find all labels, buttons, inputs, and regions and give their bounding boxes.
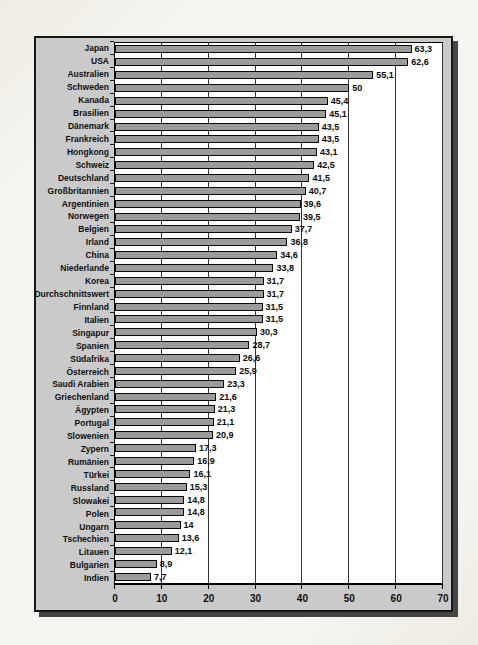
- x-tick-label: 70: [437, 593, 448, 604]
- category-label: Singapur: [36, 326, 114, 339]
- value-label: 7,7: [154, 572, 167, 582]
- bar-row: 42,5: [115, 159, 443, 172]
- category-label: Russland: [36, 481, 114, 494]
- category-label: Japan: [36, 42, 114, 55]
- x-axis-tick-mark: [442, 585, 443, 589]
- value-label: 43,5: [322, 122, 340, 132]
- value-label: 33,8: [276, 263, 294, 273]
- x-tick-label: 60: [391, 593, 402, 604]
- bar: [115, 328, 257, 336]
- value-label: 16,1: [193, 469, 211, 479]
- category-label: Großbritannien: [36, 184, 114, 197]
- category-label: Argentinien: [36, 197, 114, 210]
- category-label: Litauen: [36, 546, 114, 559]
- category-axis: JapanUSAAustralienSchwedenKanadaBrasilie…: [36, 42, 114, 585]
- category-label: Bulgarien: [36, 559, 114, 572]
- value-label: 55,1: [376, 70, 394, 80]
- value-label: 15,3: [190, 482, 208, 492]
- value-label: 50: [352, 83, 362, 93]
- bar-row: 15,3: [115, 480, 443, 493]
- x-tick-label: 40: [297, 593, 308, 604]
- x-axis-tick-mark: [395, 585, 396, 589]
- value-label: 13,6: [182, 533, 200, 543]
- category-label: Durchschnittswert: [36, 288, 114, 301]
- category-label: Ägypten: [36, 404, 114, 417]
- bar-row: 14: [115, 519, 443, 532]
- bar: [115, 71, 373, 79]
- bar: [115, 225, 292, 233]
- value-label: 28,7: [252, 340, 270, 350]
- bar-row: 31,5: [115, 300, 443, 313]
- bar: [115, 418, 214, 426]
- chart-frame: JapanUSAAustralienSchwedenKanadaBrasilie…: [34, 36, 453, 612]
- bar-row: 16,9: [115, 455, 443, 468]
- bar: [115, 483, 187, 491]
- bar-row: 37,7: [115, 223, 443, 236]
- category-label: Südafrika: [36, 352, 114, 365]
- bar-row: 13,6: [115, 532, 443, 545]
- bar: [115, 135, 319, 143]
- category-label: Tschechien: [36, 533, 114, 546]
- category-label: Kanada: [36, 94, 114, 107]
- value-label: 36,8: [290, 237, 308, 247]
- bar: [115, 84, 349, 92]
- value-label: 8,9: [160, 559, 173, 569]
- bar: [115, 431, 213, 439]
- category-label: Indien: [36, 572, 114, 585]
- bar: [115, 560, 157, 568]
- bar-row: 17,3: [115, 442, 443, 455]
- category-label: Polen: [36, 507, 114, 520]
- bar-row: 62,6: [115, 56, 443, 69]
- bar-row: 21,3: [115, 403, 443, 416]
- value-label: 34,6: [280, 250, 298, 260]
- category-label: Italien: [36, 313, 114, 326]
- bar: [115, 97, 328, 105]
- bar-row: 21,6: [115, 390, 443, 403]
- category-label: USA: [36, 55, 114, 68]
- bar: [115, 264, 273, 272]
- category-label: Türkei: [36, 468, 114, 481]
- value-label: 39,5: [303, 212, 321, 222]
- x-tick-label: 20: [203, 593, 214, 604]
- value-label: 62,6: [411, 57, 429, 67]
- bar: [115, 315, 263, 323]
- bar: [115, 277, 264, 285]
- bar: [115, 508, 184, 516]
- value-label: 40,7: [309, 186, 327, 196]
- bar: [115, 148, 317, 156]
- x-tick-label: 0: [112, 593, 118, 604]
- bar: [115, 496, 184, 504]
- bar: [115, 354, 240, 362]
- category-label: Irland: [36, 236, 114, 249]
- category-label: China: [36, 249, 114, 262]
- value-label: 43,1: [320, 147, 338, 157]
- bar: [115, 110, 326, 118]
- bar-row: 21,1: [115, 416, 443, 429]
- bar-row: 31,7: [115, 274, 443, 287]
- bar: [115, 393, 216, 401]
- bar-row: 25,9: [115, 364, 443, 377]
- bar: [115, 457, 194, 465]
- bar: [115, 45, 412, 53]
- value-label: 23,3: [227, 379, 245, 389]
- category-label: Griechenland: [36, 391, 114, 404]
- x-axis-tick-mark: [348, 585, 349, 589]
- category-label: Frankreich: [36, 132, 114, 145]
- value-label: 39,6: [304, 199, 322, 209]
- value-label: 21,3: [218, 404, 236, 414]
- bar-row: 50: [115, 82, 443, 95]
- bar-row: 39,6: [115, 197, 443, 210]
- value-label: 17,3: [199, 443, 217, 453]
- bar: [115, 174, 309, 182]
- bar-row: 45,4: [115, 94, 443, 107]
- category-label: Slowakei: [36, 494, 114, 507]
- value-label: 16,9: [197, 456, 215, 466]
- bar-row: 36,8: [115, 236, 443, 249]
- category-label: Norwegen: [36, 210, 114, 223]
- bar-row: 39,5: [115, 210, 443, 223]
- x-tick-label: 10: [156, 593, 167, 604]
- bar-row: 31,7: [115, 287, 443, 300]
- bar-row: 33,8: [115, 262, 443, 275]
- category-label: Österreich: [36, 365, 114, 378]
- category-label: Schweiz: [36, 158, 114, 171]
